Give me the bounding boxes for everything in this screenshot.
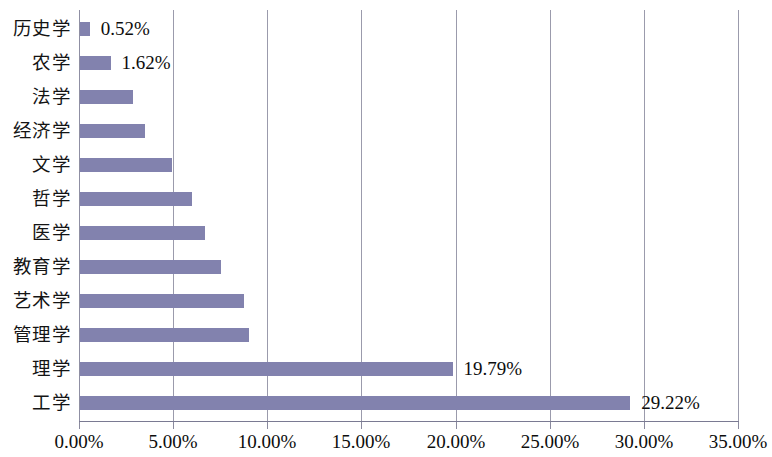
bar-row	[79, 318, 738, 352]
y-axis-category-label: 经济学	[0, 114, 74, 148]
bar-row	[79, 148, 738, 182]
bar-row	[79, 182, 738, 216]
category-label-text: 农学	[32, 54, 71, 73]
x-axis-tick-label: 5.00%	[148, 430, 197, 454]
bar-value-label: 0.52%	[101, 19, 150, 39]
x-axis-tick	[550, 422, 551, 429]
y-axis-category-label: 农学	[0, 46, 74, 80]
bar	[80, 362, 453, 376]
bar	[80, 260, 221, 274]
y-axis-category-label: 法学	[0, 80, 74, 114]
bar	[80, 396, 630, 410]
bar	[80, 56, 111, 70]
bar-row	[79, 216, 738, 250]
bar-value-label: 29.22%	[641, 393, 700, 413]
gridline	[738, 10, 739, 422]
x-axis-tick	[173, 422, 174, 429]
bar-row: 0.52%	[79, 12, 738, 46]
x-axis-tick	[361, 422, 362, 429]
bar	[80, 90, 133, 104]
x-axis-tick-label: 0.00%	[54, 430, 103, 454]
bar-row: 1.62%	[79, 46, 738, 80]
x-axis-line	[79, 421, 739, 422]
bar	[80, 124, 145, 138]
y-axis-category-label: 哲学	[0, 182, 74, 216]
bar-value-label: 19.79%	[464, 359, 523, 379]
x-axis-tick-label: 30.00%	[615, 430, 674, 454]
y-axis-category-label: 艺术学	[0, 284, 74, 318]
y-axis-category-label: 文学	[0, 148, 74, 182]
category-label-text: 文学	[32, 156, 71, 175]
bar-row	[79, 114, 738, 148]
x-axis-tick-label: 35.00%	[709, 430, 768, 454]
category-label-text: 工学	[32, 394, 71, 413]
x-axis-tick-label: 15.00%	[332, 430, 391, 454]
y-axis-category-labels: 历史学农学法学经济学文学哲学医学教育学艺术学管理学理学工学	[0, 10, 74, 422]
x-axis-tick-label: 20.00%	[427, 430, 486, 454]
bar	[80, 294, 244, 308]
bar-row	[79, 80, 738, 114]
category-label-text: 艺术学	[13, 292, 71, 311]
x-axis-tick	[738, 422, 739, 429]
category-label-text: 历史学	[13, 20, 71, 39]
bar-row: 19.79%	[79, 352, 738, 386]
bar	[80, 158, 172, 172]
y-axis-category-label: 管理学	[0, 318, 74, 352]
category-label-text: 经济学	[13, 122, 71, 141]
category-label-text: 法学	[32, 88, 71, 107]
bar-row: 29.22%	[79, 386, 738, 420]
bar-row	[79, 250, 738, 284]
x-axis-tick	[644, 422, 645, 429]
bar	[80, 192, 192, 206]
category-label-text: 管理学	[13, 326, 71, 345]
x-axis-tick-label: 25.00%	[521, 430, 580, 454]
y-axis-category-label: 教育学	[0, 250, 74, 284]
category-label-text: 教育学	[13, 258, 71, 277]
plot-area: 0.52%1.62%19.79%29.22%	[79, 10, 738, 422]
bar-chart: 历史学农学法学经济学文学哲学医学教育学艺术学管理学理学工学 0.52%1.62%…	[0, 0, 772, 457]
bar-value-label: 1.62%	[122, 53, 171, 73]
y-axis-category-label: 医学	[0, 216, 74, 250]
category-label-text: 理学	[32, 360, 71, 379]
category-label-text: 哲学	[32, 190, 71, 209]
x-axis-tick	[456, 422, 457, 429]
x-axis-tick	[79, 422, 80, 429]
x-axis-tick-labels: 0.00%5.00%10.00%15.00%20.00%25.00%30.00%…	[0, 430, 772, 457]
x-axis-tick	[267, 422, 268, 429]
category-label-text: 医学	[32, 224, 71, 243]
bar	[80, 22, 90, 36]
y-axis-category-label: 工学	[0, 386, 74, 420]
bar-row	[79, 284, 738, 318]
bar	[80, 328, 249, 342]
x-axis-tick-label: 10.00%	[238, 430, 297, 454]
bar	[80, 226, 205, 240]
y-axis-category-label: 理学	[0, 352, 74, 386]
y-axis-category-label: 历史学	[0, 12, 74, 46]
